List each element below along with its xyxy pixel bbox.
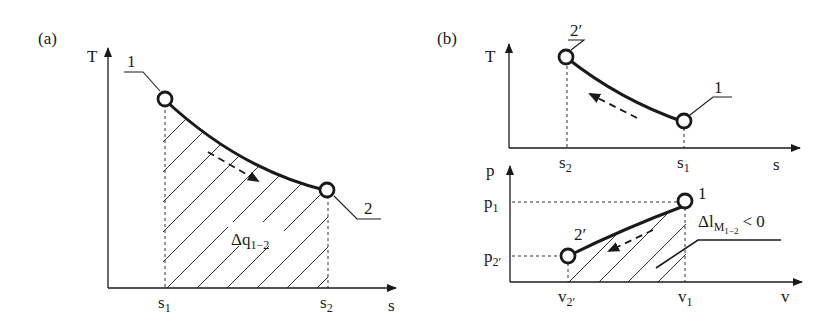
- tick-s2: s2: [320, 293, 333, 315]
- tick-p2prime: p2′: [484, 247, 502, 269]
- point-2prime-label-pv: 2′: [574, 225, 586, 244]
- state-point-2: [320, 183, 334, 197]
- tick-s1: s1: [158, 293, 171, 315]
- tick-v1: v1: [678, 287, 693, 309]
- panel-b-label: (b): [437, 29, 457, 48]
- panel-b-ts: (b) T s 2′ 1 s2 s1: [437, 21, 800, 175]
- point-2prime-label-ts: 2′: [570, 21, 582, 40]
- state-point-1-pv: [678, 194, 692, 208]
- point-1-label: 1: [127, 52, 136, 71]
- point-2-label: 2: [364, 199, 373, 218]
- state-point-2prime-ts: [559, 50, 573, 64]
- state-point-1-ts: [677, 114, 691, 128]
- thermodynamic-diagrams: (a) T s: [0, 0, 830, 335]
- v-axis-label: v: [781, 287, 790, 306]
- work-label: ΔlM1−2< 0: [698, 212, 765, 236]
- p-axis-label: p: [486, 161, 495, 180]
- s-axis-label-b: s: [773, 155, 780, 174]
- direction-arrow: [208, 152, 258, 181]
- tick-s1-b: s1: [677, 153, 690, 175]
- panel-a: (a) T s: [38, 0, 480, 315]
- tick-s2-b: s2: [559, 153, 572, 175]
- panel-b-pv: p v 1 2′ ΔlM1−2< 0 p1 p2′ v2′ v1: [484, 161, 802, 309]
- point-1-label-pv: 1: [698, 184, 707, 203]
- t-axis-label: T: [87, 47, 98, 66]
- state-point-2prime-pv: [561, 249, 575, 263]
- tick-v2prime: v2′: [558, 287, 576, 309]
- hatch-area: [163, 0, 480, 292]
- s-axis-label: s: [388, 296, 395, 315]
- panel-a-label: (a): [38, 29, 57, 48]
- state-point-1: [158, 92, 172, 106]
- t-axis-label-b: T: [485, 47, 496, 66]
- point-1-label-ts: 1: [714, 78, 723, 97]
- tick-p1: p1: [484, 193, 499, 215]
